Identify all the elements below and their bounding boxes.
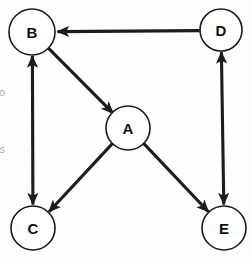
node-c[interactable]: C [11, 206, 55, 250]
node-layer: B D A C E [9, 9, 246, 250]
node-e[interactable]: E [202, 206, 246, 250]
graph-svg: B D A C E [0, 0, 251, 259]
edge-a-to-e [144, 143, 209, 211]
node-d[interactable]: D [200, 9, 242, 51]
node-b-label: B [27, 24, 38, 41]
edge-b-to-a [49, 48, 113, 113]
node-e-label: E [219, 220, 229, 237]
diagram-canvas: B D A C E o s [0, 0, 251, 259]
edge-d-to-e-bidirectional [221, 52, 223, 205]
node-c-label: C [28, 220, 39, 237]
edge-a-to-c [49, 143, 113, 211]
edge-d-to-b [58, 31, 200, 32]
margin-text-fragment-bottom: s [0, 143, 5, 155]
node-a-label: A [123, 120, 134, 137]
margin-text-fragment-top: o [0, 86, 5, 98]
edge-b-to-c-bidirectional [32, 56, 33, 205]
node-b[interactable]: B [9, 9, 55, 55]
node-d-label: D [216, 22, 227, 39]
node-a[interactable]: A [106, 106, 150, 150]
